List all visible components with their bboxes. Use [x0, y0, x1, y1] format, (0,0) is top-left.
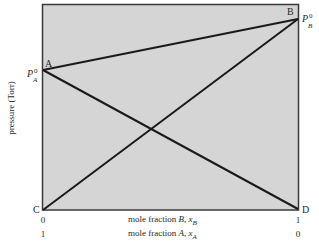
pressure-composition-diagram: A B C D P 0 A P 0 B pressure (Torr) 0 1 … — [0, 0, 319, 247]
svg-text:B: B — [308, 22, 313, 30]
pressure-a-label: P 0 A — [26, 67, 38, 84]
svg-text:0: 0 — [34, 67, 38, 75]
point-d-label: D — [302, 204, 309, 215]
x-tick-left-row1: 0 — [41, 215, 46, 225]
point-b-label: B — [287, 6, 294, 17]
pressure-b-label: P 0 B — [301, 12, 313, 30]
point-c-label: C — [33, 204, 40, 215]
x-tick-left-row2: 1 — [41, 229, 46, 239]
x-tick-right-row1: 1 — [296, 215, 301, 225]
svg-text:0: 0 — [309, 12, 313, 20]
x-tick-right-row2: 0 — [296, 229, 301, 239]
y-axis-label: pressure (Torr) — [6, 81, 16, 135]
svg-text:A: A — [32, 76, 38, 84]
point-a-label: A — [45, 58, 53, 69]
plot-area — [43, 5, 299, 211]
x-axis-label-b: mole fraction B, xB — [128, 214, 197, 227]
x-axis-label-a: mole fraction A, xA — [128, 228, 197, 241]
